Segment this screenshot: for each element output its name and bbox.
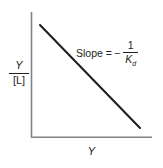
slope-annotation-minus: −: [114, 47, 120, 59]
scatchard-plot-figure: Y [L] Y Slope = − 1 Kd: [0, 0, 163, 168]
x-axis-label: Y: [31, 145, 152, 157]
y-axis-label-numerator: Y: [6, 60, 32, 73]
slope-annotation: Slope = − 1 Kd: [76, 40, 138, 67]
slope-fraction-denominator: Kd: [123, 53, 138, 67]
y-axis-label-denominator: [L]: [6, 75, 32, 87]
y-axis-label: Y [L]: [6, 60, 32, 86]
slope-annotation-word: Slope: [76, 47, 103, 59]
slope-fraction-numerator: 1: [126, 40, 136, 52]
slope-annotation-fraction: 1 Kd: [123, 40, 138, 67]
slope-annotation-equals: =: [106, 47, 112, 59]
slope-fraction-denominator-subscript: d: [132, 60, 136, 67]
